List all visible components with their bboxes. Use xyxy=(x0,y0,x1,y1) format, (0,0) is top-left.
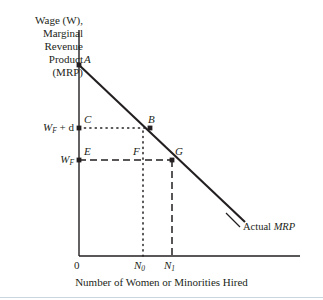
point-label-c: C xyxy=(84,113,91,126)
curve-label-plain: Actual xyxy=(243,221,274,232)
y-axis-title-line-3: Revenue xyxy=(0,40,83,53)
x-tick-label-n0: N0 xyxy=(134,259,145,273)
curve-label-italic: MRP xyxy=(274,221,296,232)
y-tick-label-wage-plus-d: WF + d xyxy=(0,121,74,135)
x-tick-n1-subscript: 1 xyxy=(171,264,175,273)
point-label-e: E xyxy=(84,145,91,158)
point-label-g: G xyxy=(175,145,183,158)
x-tick-n0-subscript: 0 xyxy=(141,264,145,273)
point-label-a: A xyxy=(84,53,91,66)
curve-label-actual-mrp: Actual MRP xyxy=(243,221,295,233)
y-tick-label-wage-f: WF xyxy=(0,153,74,167)
x-tick-label-n1: N1 xyxy=(164,259,175,273)
mrp-curve xyxy=(79,65,245,222)
point-marker-G xyxy=(170,158,175,163)
point-marker-E xyxy=(77,158,82,163)
point-label-f: F xyxy=(133,145,140,158)
economics-diagram: Wage (W), Marginal Revenue Product (MRP)… xyxy=(0,0,323,300)
x-axis-title: Number of Women or Minorities Hired xyxy=(0,276,323,289)
point-marker-C xyxy=(77,126,82,131)
y-axis-title-line-4: Product xyxy=(0,53,83,66)
origin-label: 0 xyxy=(74,259,80,272)
y-axis-title: Wage (W), Marginal Revenue Product (MRP) xyxy=(0,14,83,79)
bottom-rule xyxy=(0,297,323,298)
y-axis-title-line-2: Marginal xyxy=(0,27,83,40)
point-marker-B xyxy=(148,126,153,131)
y-axis-title-line-5: (MRP) xyxy=(0,66,83,79)
y-tick-wage-symbol: W xyxy=(43,121,52,133)
y-tick-wage-suffix: + d xyxy=(57,121,74,133)
y-axis-title-line-1: Wage (W), xyxy=(0,14,83,27)
point-label-b: B xyxy=(148,113,155,126)
y-tick-wage-f-subscript: F xyxy=(69,158,74,167)
